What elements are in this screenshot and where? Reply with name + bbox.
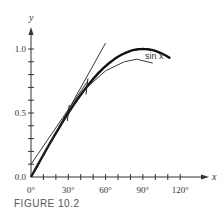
x-tick-label: 60° — [99, 185, 112, 195]
x-tick-label: 120° — [172, 185, 190, 195]
y-axis-arrow-icon — [29, 27, 34, 35]
y-tick-label: 0.0 — [15, 172, 27, 182]
approximation-curve — [31, 59, 153, 177]
chart-canvas: 0°30°60°90°120° 0.00.51.0 x y sin x — [0, 0, 221, 218]
y-axis-tick-labels: 0.00.51.0 — [15, 44, 27, 182]
x-axis-tick-labels: 0°30°60°90°120° — [27, 185, 189, 195]
x-tick-label: 30° — [62, 185, 75, 195]
sin-x-curve — [31, 49, 170, 177]
x-tick-label: 0° — [27, 185, 36, 195]
figure-caption: FIGURE 10.2 — [14, 198, 80, 209]
offset-tangent-line — [31, 82, 87, 164]
series-group — [31, 43, 170, 177]
axes: 0°30°60°90°120° 0.00.51.0 x y — [15, 12, 217, 195]
x-axis-arrow-icon — [201, 175, 209, 180]
y-axis-label: y — [28, 12, 34, 23]
sin-x-label: sin x — [145, 51, 164, 61]
x-axis-label: x — [211, 171, 217, 182]
y-tick-label: 1.0 — [15, 44, 27, 54]
y-tick-label: 0.5 — [15, 108, 27, 118]
x-tick-label: 90° — [137, 185, 150, 195]
